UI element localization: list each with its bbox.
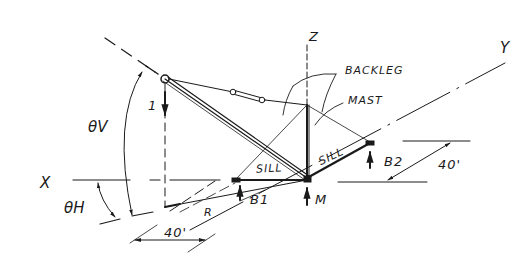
right-dim-label: 40' bbox=[438, 158, 461, 171]
topping-line bbox=[169, 79, 233, 92]
theta-h-label: θH bbox=[64, 201, 84, 216]
load-label: 1 bbox=[148, 99, 157, 112]
y-axis-label: Y bbox=[500, 41, 509, 56]
radius-line bbox=[165, 180, 307, 207]
b1-label: B1 bbox=[250, 193, 269, 206]
mast-label: MAST bbox=[348, 95, 383, 106]
backleg-label: BACKLEG bbox=[345, 65, 404, 76]
z-axis-label: Z bbox=[309, 30, 319, 43]
theta-h-arc bbox=[98, 183, 115, 217]
diagram-drawing bbox=[0, 0, 525, 269]
sill-left-label: SILL bbox=[256, 162, 283, 174]
boom bbox=[165, 79, 307, 178]
derrick-diagram: Z X Y BACKLEG MAST SILL SILL B1 B2 M 1 θ… bbox=[0, 0, 525, 269]
m-label: M bbox=[315, 193, 327, 206]
b2-label: B2 bbox=[384, 155, 403, 168]
x-axis-label: X bbox=[40, 176, 50, 191]
left-dim-label: 40' bbox=[164, 226, 187, 239]
y-axis bbox=[190, 63, 505, 230]
radius-label: R bbox=[204, 207, 213, 218]
theta-v-label: θV bbox=[88, 120, 107, 135]
theta-v-arc bbox=[124, 72, 142, 215]
